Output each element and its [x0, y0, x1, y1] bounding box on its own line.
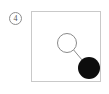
figure-panel: 4 — [0, 0, 109, 94]
open-circle-node — [58, 34, 77, 53]
panel-index-badge: 4 — [9, 12, 22, 25]
diagram-canvas — [32, 12, 102, 83]
node-connector-line — [74, 50, 83, 61]
panel-index-label: 4 — [14, 14, 18, 22]
figure-frame — [31, 11, 101, 82]
filled-circle-node — [78, 57, 100, 79]
